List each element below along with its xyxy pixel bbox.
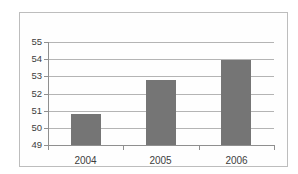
bar-2006 [221, 60, 251, 145]
bar-2004 [71, 114, 101, 145]
gridline-55 [48, 42, 274, 43]
y-tick-label-52: 52 [20, 89, 42, 99]
x-category-label-2006: 2006 [199, 155, 274, 166]
y-tick-label-51: 51 [20, 106, 42, 116]
x-category-label-2005: 2005 [123, 155, 198, 166]
y-tick-label-53: 53 [20, 71, 42, 81]
bar-2005 [146, 80, 176, 145]
y-tick-label-55: 55 [20, 37, 42, 47]
x-tick-mark-1 [123, 145, 124, 150]
y-tick-label-54: 54 [20, 54, 42, 64]
x-tick-mark-3 [274, 145, 275, 150]
x-axis-line [48, 145, 275, 146]
y-tick-label-49: 49 [20, 140, 42, 150]
x-tick-mark-2 [199, 145, 200, 150]
x-category-label-2004: 2004 [48, 155, 123, 166]
chart-frame: 55545352515049200420052006 [19, 12, 288, 167]
y-axis-line [48, 42, 49, 145]
y-tick-label-50: 50 [20, 123, 42, 133]
x-tick-mark-0 [48, 145, 49, 150]
